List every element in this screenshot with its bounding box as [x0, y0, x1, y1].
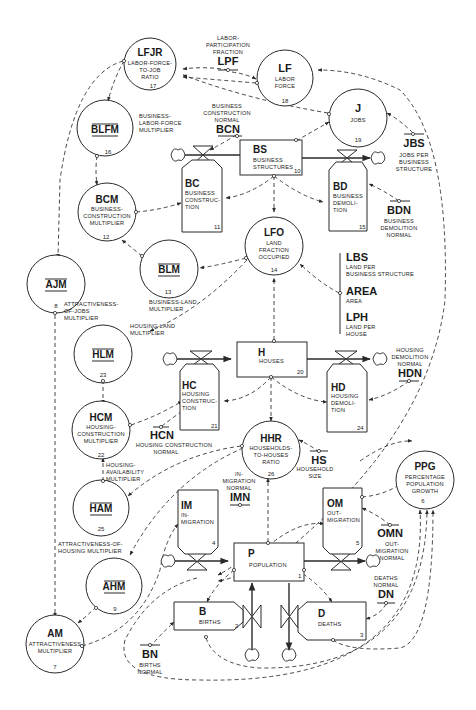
- rate-d[interactable]: D DEATHS 3: [298, 602, 366, 642]
- level-label: STRUCTURES: [253, 164, 293, 170]
- rate-label: OUT-: [327, 510, 341, 516]
- const-hs[interactable]: HS HOUSEHOLD SIZE: [296, 449, 333, 479]
- aux-am[interactable]: AM ATTRACTIVENESS MULTIPLIER 7: [26, 615, 84, 673]
- level-label: HOUSES: [259, 358, 284, 364]
- aux-abbr: AHM: [103, 581, 126, 592]
- const-omn[interactable]: OMN OUT- MIGRATION NORMAL: [375, 523, 408, 561]
- level-abbr: BS: [253, 144, 267, 155]
- aux-hlm[interactable]: HLM 23: [74, 325, 132, 383]
- aux-abbr: HLM: [92, 349, 114, 360]
- aux-lfo[interactable]: LFO LAND FRACTION OCCUPIED 14: [244, 217, 303, 275]
- level-p[interactable]: P POPULATION 1: [232, 541, 305, 581]
- const-bdn[interactable]: BDN BUSINESS DEMOLITION NORMAL: [381, 199, 418, 238]
- aux-abbr: J: [355, 102, 361, 114]
- rate-im[interactable]: IM IN- MIGRATION 4: [178, 490, 218, 554]
- const-label: PARTICIPATION: [206, 42, 250, 48]
- level-abbr: H: [258, 347, 265, 358]
- aux-abbr: LFO: [264, 227, 284, 238]
- const-abbr: IMN: [230, 491, 250, 503]
- const-bcn[interactable]: BUSINESS CONSTRUCTION NORMAL BCN: [203, 103, 250, 138]
- ham-label: HOUSING-: [106, 462, 136, 468]
- aux-abbr: HAM: [90, 503, 113, 514]
- aux-abbr: AJM: [45, 279, 66, 290]
- aux-abbr: BLFM: [91, 124, 119, 135]
- const-abbr: BN: [142, 648, 158, 660]
- const-area[interactable]: AREA AREA: [346, 285, 377, 304]
- const-label: NORMAL: [379, 555, 404, 561]
- cloud-sink-h-icon: [373, 353, 387, 365]
- rate-label: TION: [185, 204, 199, 210]
- equation-number: 24: [357, 425, 364, 431]
- aux-label: POPULATION: [406, 481, 444, 487]
- blfm-label: LABOR-FORCE: [139, 120, 182, 126]
- const-lbs[interactable]: LBS LAND PER BUSINESS STRUCTURE: [346, 251, 414, 277]
- const-dn[interactable]: DEATHS NORMAL DN: [373, 575, 398, 605]
- rate-abbr: B: [199, 606, 206, 617]
- const-label: HOUSING CONSTRUCTION: [136, 442, 213, 448]
- cloud-source-b-icon: [245, 649, 259, 661]
- cloud-sink-p-icon: [366, 555, 380, 567]
- cloud-source-p-icon: [161, 555, 175, 567]
- aux-bcm[interactable]: BCM BUSINESS- CONSTRUCTION MULTIPLIER 12: [78, 183, 138, 241]
- rate-hc[interactable]: HC HOUSING CONSTRUC- TION 21: [180, 364, 219, 430]
- equation-number: 23: [100, 372, 107, 378]
- rate-abbr: D: [318, 608, 325, 619]
- level-h[interactable]: H HOUSES 20: [237, 339, 307, 378]
- hlm-label: HOUSING-LAND: [130, 323, 175, 329]
- rate-bd[interactable]: BD BUSINESS DEMOLI- TION 15: [329, 162, 367, 231]
- const-abbr: BDN: [387, 204, 411, 216]
- const-abbr: HS: [311, 454, 326, 466]
- aux-ahm[interactable]: AHM 9: [86, 558, 142, 614]
- equation-number: 16: [105, 149, 112, 155]
- const-lph[interactable]: LPH LAND PER HOUSE: [346, 311, 376, 337]
- rate-b[interactable]: B BIRTHS 2: [174, 602, 243, 639]
- equation-number: 14: [271, 267, 278, 273]
- const-abbr: LPH: [346, 311, 368, 323]
- const-jbs[interactable]: JBS JOBS PER BUSINESS STRUCTURE: [396, 132, 432, 172]
- aux-abbr: LFJR: [138, 47, 164, 58]
- aux-blm[interactable]: BLM 13: [140, 240, 198, 298]
- aux-lfjr[interactable]: LFJR LABOR-FORCE- TO-JOB RATIO 17: [122, 38, 176, 90]
- aux-label: FRACTION: [259, 247, 289, 253]
- aux-ppg[interactable]: PPG PERCENTAGE POPULATION GROWTH 6: [396, 451, 454, 509]
- rate-label: CONSTRUC-: [185, 197, 220, 203]
- const-lpf[interactable]: LABOR- PARTICIPATION FRACTION LPF: [206, 35, 250, 72]
- aux-abbr: HHR: [260, 433, 282, 444]
- rate-label: BUSINESS: [333, 193, 363, 199]
- aux-label: RATIO: [262, 459, 280, 465]
- ahm-label: HOUSING MULTIPLIER: [58, 548, 122, 554]
- aux-hcm[interactable]: HCM HOUSING- CONSTRUCTION MULTIPLIER 22: [72, 401, 132, 459]
- cloud-source-bs-icon: [171, 149, 185, 161]
- aux-label: MULTIPLIER: [84, 438, 119, 444]
- rate-hd[interactable]: HD HOUSING DEMOLI- TION 24: [327, 364, 367, 432]
- aux-hhr[interactable]: HHR HOUSEHOLDS- TO-HOUSES RATIO 26: [240, 421, 300, 479]
- equation-number: 19: [355, 137, 362, 143]
- aux-label: ATTRACTIVENESS: [29, 641, 81, 647]
- const-label: MIGRATION: [222, 478, 255, 484]
- aux-label: HOUSING-: [86, 424, 116, 430]
- const-label: BIRTHS: [139, 662, 161, 668]
- aux-j[interactable]: J JOBS 19: [327, 89, 387, 147]
- equation-number: 17: [150, 83, 157, 89]
- aux-ham[interactable]: HAM 25: [73, 479, 129, 536]
- const-bn[interactable]: BN BIRTHS NORMAL: [137, 643, 162, 675]
- equation-number: 25: [98, 526, 105, 532]
- cloud-source-h-icon: [163, 353, 177, 365]
- equation-number: 26: [268, 471, 275, 477]
- aux-abbr: PPG: [414, 461, 435, 472]
- const-imn[interactable]: IN- MIGRATION NORMAL IMN: [222, 471, 255, 507]
- aux-lf[interactable]: LF LABOR FORCE 18: [255, 50, 313, 106]
- rate-om[interactable]: OM OUT- MIGRATION 5: [323, 488, 364, 554]
- const-label: HOUSE: [346, 331, 367, 337]
- rate-label: TION: [331, 407, 345, 413]
- ajm-label: ATTRACTIVENESS-: [64, 301, 119, 307]
- aux-blfm[interactable]: BLFM 16: [77, 100, 133, 158]
- level-bs[interactable]: BS BUSINESS STRUCTURES 10: [240, 138, 302, 177]
- rate-label: TION: [333, 207, 347, 213]
- const-hdn[interactable]: HOUSING DEMOLITION NORMAL HDN: [392, 347, 429, 383]
- const-land-stack: [338, 253, 341, 334]
- rate-abbr: IM: [181, 500, 192, 511]
- rate-bc[interactable]: BC BUSINESS CONSTRUC- TION 11: [182, 160, 222, 232]
- rate-label: BUSINESS: [185, 190, 215, 196]
- ham-label: MULTIPLIER: [106, 476, 141, 482]
